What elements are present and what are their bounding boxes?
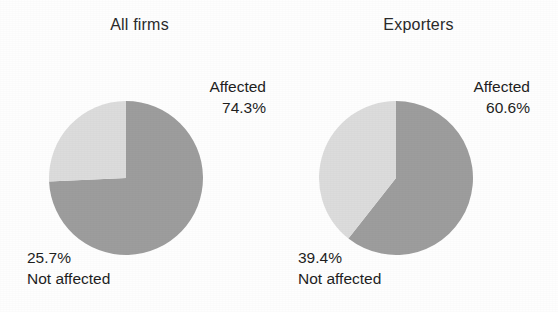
callout-affected-value-all-firms: 74.3% bbox=[120, 97, 266, 118]
pie-exporters-svg bbox=[318, 100, 474, 256]
callout-affected-label-all-firms: Affected bbox=[120, 76, 266, 97]
callout-not-affected-value-all-firms: 25.7% bbox=[27, 247, 197, 268]
callout-affected-label-exporters: Affected bbox=[384, 76, 530, 97]
panel-all-firms: All firms Affected 74.3% 25.7% Not affec… bbox=[0, 0, 279, 312]
callout-affected-exporters: Affected 60.6% bbox=[384, 76, 530, 118]
pie-exporters bbox=[318, 100, 474, 256]
callout-not-affected-exporters: 39.4% Not affected bbox=[298, 247, 468, 289]
callout-not-affected-label-all-firms: Not affected bbox=[27, 268, 197, 289]
callout-not-affected-value-exporters: 39.4% bbox=[298, 247, 468, 268]
pie-all-firms bbox=[48, 100, 204, 256]
pie-chart-figure: All firms Affected 74.3% 25.7% Not affec… bbox=[0, 0, 558, 312]
panel-title-all-firms: All firms bbox=[0, 16, 279, 34]
pie-slice-not-affected-all-firms bbox=[49, 101, 126, 181]
callout-not-affected-all-firms: 25.7% Not affected bbox=[27, 247, 197, 289]
panel-exporters: Exporters Affected 60.6% 39.4% Not affec… bbox=[279, 0, 558, 312]
callout-not-affected-label-exporters: Not affected bbox=[298, 268, 468, 289]
pie-all-firms-svg bbox=[48, 100, 204, 256]
callout-affected-value-exporters: 60.6% bbox=[384, 97, 530, 118]
callout-affected-all-firms: Affected 74.3% bbox=[120, 76, 266, 118]
panel-title-exporters: Exporters bbox=[279, 16, 558, 34]
